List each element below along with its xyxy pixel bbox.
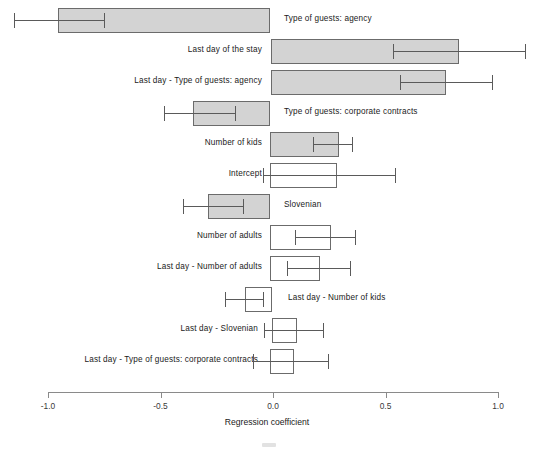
error-bar-cap-low-overlay (164, 106, 165, 121)
error-bar-cap-low-overlay (313, 137, 314, 152)
axis-tick-label: -0.5 (153, 401, 167, 411)
chart-row: Number of adults (0, 222, 534, 253)
error-bar-cap-high-overlay (328, 354, 329, 369)
chart-row: Number of kids (0, 129, 534, 160)
error-bar-line-overlay (253, 361, 328, 362)
chart-row: Last day - Type of guests: corporate con… (0, 346, 534, 377)
axis-tick-label: 0.0 (267, 401, 279, 411)
chart-row: Last day of the stay (0, 36, 534, 67)
error-bar-line-overlay (313, 144, 352, 145)
error-bar-cap-low-overlay (263, 168, 264, 183)
error-bar-cap-high-overlay (525, 44, 526, 59)
chart-row: Intercept (0, 160, 534, 191)
error-bar-cap-high-overlay (323, 323, 324, 338)
error-bar-line-overlay (295, 237, 355, 238)
error-bar-line-overlay (393, 51, 525, 52)
error-bar-cap-low-overlay (253, 354, 254, 369)
error-bar-cap-low-overlay (393, 44, 394, 59)
error-bar-cap-high-overlay (355, 230, 356, 245)
x-axis-title: Regression coefficient (0, 417, 534, 427)
error-bar-cap-high-overlay (104, 13, 105, 28)
axis-tick-label: 0.5 (380, 401, 392, 411)
bar-label: Slovenian (284, 200, 321, 209)
bar-label: Type of guests: corporate contracts (284, 107, 418, 116)
error-bar-cap-high-overlay (243, 199, 244, 214)
bar-label: Last day - Number of kids (288, 293, 385, 302)
chart-row: Last day - Slovenian (0, 315, 534, 346)
error-bar-line-overlay (14, 20, 104, 21)
bar-label: Last day - Slovenian (181, 324, 258, 333)
plot-area: Type of guests: agencyLast day of the st… (0, 0, 534, 385)
error-bar-cap-high-overlay (235, 106, 236, 121)
chart-row: Last day - Number of kids (0, 284, 534, 315)
bar-label: Type of guests: agency (284, 14, 372, 23)
error-bar-line-overlay (287, 268, 350, 269)
chart-row: Type of guests: agency (0, 5, 534, 36)
chart-row: Last day - Type of guests: agency (0, 67, 534, 98)
error-bar-cap-high-overlay (350, 261, 351, 276)
bar-label: Number of kids (205, 138, 262, 147)
axis-tick (273, 392, 274, 398)
chart-row: Last day - Number of adults (0, 253, 534, 284)
bar-label: Number of adults (197, 231, 262, 240)
error-bar-line-overlay (400, 82, 492, 83)
bar-label: Last day - Type of guests: agency (134, 76, 262, 85)
error-bar-cap-low-overlay (225, 292, 226, 307)
error-bar-line-overlay (264, 330, 323, 331)
x-axis: -1.0-0.50.00.51.0 (0, 392, 534, 393)
error-bar-cap-high-overlay (395, 168, 396, 183)
bar-label: Last day of the stay (188, 45, 262, 54)
bar-label: Intercept (229, 169, 262, 178)
error-bar-cap-high-overlay (492, 75, 493, 90)
error-bar-cap-low-overlay (295, 230, 296, 245)
error-bar-cap-low-overlay (287, 261, 288, 276)
bar-label: Last day - Number of adults (157, 262, 262, 271)
axis-tick-label: 1.0 (492, 401, 504, 411)
chart-row: Type of guests: corporate contracts (0, 98, 534, 129)
error-bar-cap-high-overlay (352, 137, 353, 152)
error-bar-line-overlay (225, 299, 263, 300)
error-bar-cap-low-overlay (14, 13, 15, 28)
chart-row: Slovenian (0, 191, 534, 222)
bar-label: Last day - Type of guests: corporate con… (84, 355, 258, 364)
axis-tick (498, 392, 499, 398)
error-bar-line-overlay (183, 206, 243, 207)
axis-tick (161, 392, 162, 398)
error-bar-cap-low-overlay (183, 199, 184, 214)
error-bar-line-overlay (164, 113, 235, 114)
error-bar-line-overlay (263, 175, 395, 176)
page-artifact (262, 443, 276, 447)
error-bar-cap-high-overlay (263, 292, 264, 307)
axis-tick-label: -1.0 (41, 401, 55, 411)
axis-tick (48, 392, 49, 398)
error-bar-cap-low-overlay (400, 75, 401, 90)
regression-coefficient-chart: Type of guests: agencyLast day of the st… (0, 0, 534, 451)
axis-tick (386, 392, 387, 398)
error-bar-cap-low-overlay (264, 323, 265, 338)
